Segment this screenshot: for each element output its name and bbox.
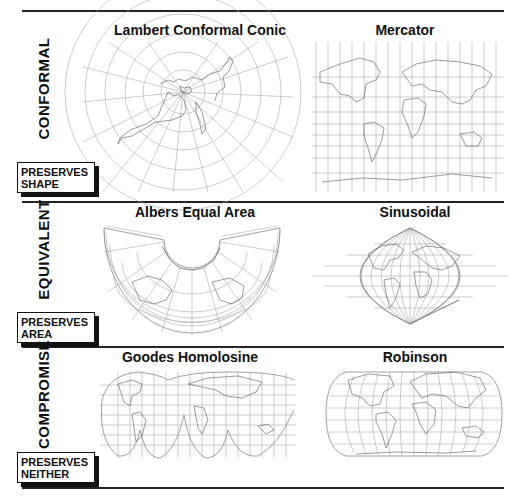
robinson-map <box>326 368 502 460</box>
category-label-equivalent: EQUIVALENT <box>35 175 52 325</box>
badge-line2: AREA <box>21 328 91 340</box>
projection-title-mercator: Mercator <box>310 22 500 38</box>
category-label-compromise: COMPROMISE <box>35 320 52 470</box>
divider-top <box>22 10 504 12</box>
mercator-map <box>312 42 504 192</box>
projection-title-goodes: Goodes Homolosine <box>100 349 280 365</box>
badge-line2: SHAPE <box>21 178 91 190</box>
badge-preserves-neither: PRESERVES NEITHER <box>17 452 95 483</box>
badge-preserves-shape: PRESERVES SHAPE <box>17 162 95 193</box>
badge-line1: PRESERVES <box>21 456 91 468</box>
projection-title-robinson: Robinson <box>330 349 500 365</box>
sinusoidal-map <box>312 228 508 324</box>
divider-conformal-equivalent <box>22 201 504 203</box>
badge-line1: PRESERVES <box>21 166 91 178</box>
projection-title-lambert: Lambert Conformal Conic <box>100 22 300 38</box>
badge-line1: PRESERVES <box>21 316 91 328</box>
divider-bottom <box>22 487 504 489</box>
goodes-homolosine-map <box>98 370 298 460</box>
category-label-conformal: CONFORMAL <box>35 14 52 164</box>
badge-line2: NEITHER <box>21 468 91 480</box>
lambert-conformal-conic-map <box>88 42 288 192</box>
divider-equivalent-compromise <box>22 346 504 348</box>
albers-equal-area-map <box>102 222 282 337</box>
projection-title-sinusoidal: Sinusoidal <box>330 204 500 220</box>
badge-preserves-area: PRESERVES AREA <box>17 312 95 343</box>
projection-title-albers: Albers Equal Area <box>100 204 290 220</box>
